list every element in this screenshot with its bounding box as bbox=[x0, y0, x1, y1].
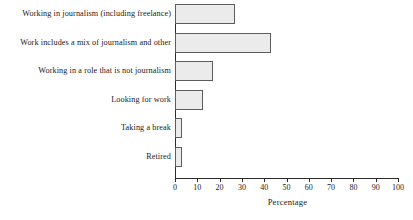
bar-row: Working in a role that is not journalism bbox=[0, 61, 413, 81]
x-axis-tick bbox=[331, 178, 332, 182]
bar-category-label: Looking for work bbox=[111, 90, 171, 110]
bar-row: Retired bbox=[0, 147, 413, 167]
x-axis-tick-label: 20 bbox=[216, 183, 224, 192]
x-axis-tick-label: 40 bbox=[260, 183, 268, 192]
x-axis-tick bbox=[398, 178, 399, 182]
bar bbox=[175, 33, 271, 53]
bar-category-label: Taking a break bbox=[121, 118, 171, 138]
x-axis-title: Percentage bbox=[0, 197, 413, 207]
x-axis-tick bbox=[309, 178, 310, 182]
bar bbox=[175, 61, 213, 81]
bar-row: Work includes a mix of journalism and ot… bbox=[0, 33, 413, 53]
bar-category-label: Work includes a mix of journalism and ot… bbox=[20, 33, 171, 53]
x-axis-tick bbox=[175, 178, 176, 182]
bar-category-label: Working in a role that is not journalism bbox=[38, 61, 171, 81]
x-axis-tick-label: 80 bbox=[349, 183, 357, 192]
x-axis-tick-label: 30 bbox=[238, 183, 246, 192]
x-axis-tick-label: 70 bbox=[327, 183, 335, 192]
bar-row: Working in journalism (including freelan… bbox=[0, 4, 413, 24]
x-axis-title-label: Percentage bbox=[268, 197, 308, 207]
x-axis-tick-label: 100 bbox=[392, 183, 404, 192]
x-axis-tick bbox=[353, 178, 354, 182]
x-axis-tick bbox=[220, 178, 221, 182]
x-axis-tick bbox=[376, 178, 377, 182]
x-axis-tick-label: 0 bbox=[173, 183, 177, 192]
x-axis-tick bbox=[264, 178, 265, 182]
bar bbox=[175, 90, 203, 110]
bar bbox=[175, 147, 182, 167]
x-axis-tick-label: 50 bbox=[283, 183, 291, 192]
x-axis-tick bbox=[197, 178, 198, 182]
bar-row: Taking a break bbox=[0, 118, 413, 138]
bar-rows: Working in journalism (including freelan… bbox=[0, 4, 413, 178]
bar-chart: Working in journalism (including freelan… bbox=[0, 0, 413, 220]
x-axis-tick bbox=[287, 178, 288, 182]
x-axis-tick-label: 60 bbox=[305, 183, 313, 192]
x-axis-tick bbox=[242, 178, 243, 182]
bar bbox=[175, 4, 235, 24]
bar-category-label: Retired bbox=[146, 147, 171, 167]
bar bbox=[175, 118, 182, 138]
x-axis-tick-label: 90 bbox=[372, 183, 380, 192]
bar-category-label: Working in journalism (including freelan… bbox=[22, 4, 171, 24]
x-axis-tick-label: 10 bbox=[193, 183, 201, 192]
bar-row: Looking for work bbox=[0, 90, 413, 110]
